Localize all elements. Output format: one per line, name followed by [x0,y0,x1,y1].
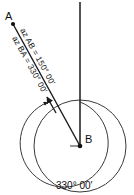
point-b-dot [78,144,83,149]
azimuth-sweep-arc [20,102,108,187]
point-a-dot [11,22,15,26]
point-b-label: B [85,133,92,145]
arc-sweep-label: 330° 00' [56,180,93,191]
azimuth-diagram: A B az AB = 150° 00' az BA = 330° 00' 33… [0,0,134,195]
diagram-canvas: A B az AB = 150° 00' az BA = 330° 00' 33… [0,0,134,195]
point-a-label: A [5,10,13,22]
